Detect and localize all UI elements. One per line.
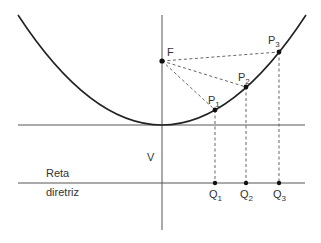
focus-to-p3-dashed <box>162 52 279 61</box>
focus-label: F <box>167 46 174 58</box>
parabola-diagram: F V Reta diretriz P1 P2 P3 Q1 Q2 Q3 <box>0 0 321 243</box>
focus-to-p2-dashed <box>162 61 246 87</box>
vertex-label: V <box>147 151 155 163</box>
directrix-label-line1: Reta <box>46 167 70 179</box>
point-p3 <box>277 50 282 55</box>
p1-label: P1 <box>208 94 220 109</box>
point-q3 <box>277 181 281 185</box>
q1-label: Q1 <box>209 188 223 203</box>
p2-label: P2 <box>238 71 250 86</box>
point-q2 <box>244 181 248 185</box>
q2-label: Q2 <box>240 188 254 203</box>
focus-point <box>159 58 164 63</box>
point-q1 <box>213 181 217 185</box>
directrix-label-line2: diretriz <box>46 186 79 198</box>
p3-label: P3 <box>268 34 280 49</box>
q3-label: Q3 <box>273 188 287 203</box>
